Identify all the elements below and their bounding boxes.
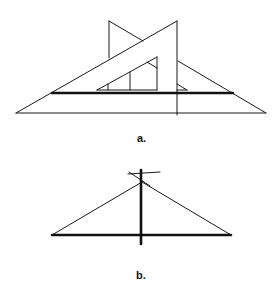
- figure-b: [52, 170, 231, 244]
- figure-b-label: b.: [136, 270, 146, 281]
- left-side: [52, 182, 142, 235]
- figure-a: [16, 21, 266, 115]
- figure-a-label: a.: [137, 133, 146, 144]
- right-side: [142, 182, 231, 235]
- arc-cross: [128, 172, 160, 174]
- front-set-square: [16, 21, 266, 115]
- back-set-square: [109, 21, 266, 113]
